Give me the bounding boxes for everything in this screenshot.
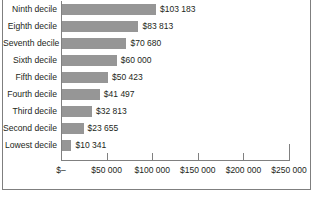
category-label: Fourth decile (3, 86, 57, 103)
category-label: Sixth decile (3, 52, 57, 69)
chart-figure-frame: Ninth decile$103 183Eighth decile$83 813… (2, 0, 311, 190)
bar-value-label: $41 497 (100, 86, 135, 103)
x-axis-tick (198, 153, 199, 160)
x-axis-tick (107, 153, 108, 160)
bar-row: Seventh decile$70 680 (3, 35, 310, 52)
bar-row: Lowest decile$10 341 (3, 137, 310, 154)
bar-chart: Ninth decile$103 183Eighth decile$83 813… (3, 0, 310, 189)
category-label: Seventh decile (3, 35, 57, 52)
category-label: Fifth decile (3, 69, 57, 86)
category-label: Second decile (3, 120, 57, 137)
category-label: Lowest decile (3, 137, 57, 154)
category-axis-line (61, 160, 289, 161)
bar-value-label: $23 655 (84, 120, 119, 137)
bar-value-label: $50 423 (108, 69, 143, 86)
x-axis-tick (152, 153, 153, 160)
bar-row: Fourth decile$41 497 (3, 86, 310, 103)
bar (62, 21, 138, 32)
bar-value-label: $32 813 (92, 103, 127, 120)
x-axis-tick (289, 153, 290, 160)
bar-value-label: $103 183 (156, 1, 195, 18)
bar-row: Third decile$32 813 (3, 103, 310, 120)
category-label: Ninth decile (3, 1, 57, 18)
x-axis-tick-label: $– (56, 165, 65, 175)
bar (62, 123, 84, 134)
bar-row: Ninth decile$103 183 (3, 1, 310, 18)
bar-value-label: $83 813 (138, 18, 173, 35)
x-axis-tick (243, 153, 244, 160)
bar (62, 140, 71, 151)
bar (62, 55, 117, 66)
bar-row: Second decile$23 655 (3, 120, 310, 137)
bar (62, 89, 100, 100)
bar-row: Fifth decile$50 423 (3, 69, 310, 86)
bar (62, 106, 92, 117)
x-axis-tick-label: $50 000 (91, 165, 122, 175)
x-axis-tick-label: $100 000 (134, 165, 169, 175)
x-axis-tick-label: $200 000 (226, 165, 261, 175)
category-label: Third decile (3, 103, 57, 120)
bar (62, 4, 156, 15)
bar (62, 38, 126, 49)
bar-row: Sixth decile$60 000 (3, 52, 310, 69)
bar (62, 72, 108, 83)
x-axis-tick-label: $250 000 (271, 165, 306, 175)
bar-row: Eighth decile$83 813 (3, 18, 310, 35)
bar-value-label: $70 680 (126, 35, 161, 52)
bar-value-label: $10 341 (71, 137, 106, 154)
x-axis-tick-label: $150 000 (180, 165, 215, 175)
category-label: Eighth decile (3, 18, 57, 35)
bar-value-label: $60 000 (117, 52, 152, 69)
